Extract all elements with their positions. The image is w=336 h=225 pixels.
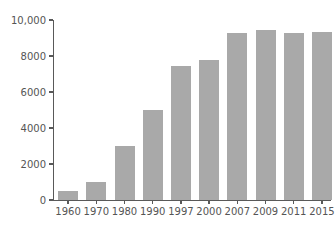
bar [199, 60, 219, 200]
plot-area [54, 20, 336, 200]
x-axis-tick-mark [265, 200, 266, 204]
x-axis-tick-mark [96, 200, 97, 204]
bar [227, 33, 247, 200]
x-axis-tick-label: 1997 [168, 206, 193, 217]
y-axis-tick-label: 10,000 [0, 15, 53, 26]
bar [86, 182, 106, 200]
x-axis-tick-label: 1990 [140, 206, 165, 217]
x-axis-tick-mark [293, 200, 294, 204]
x-axis-tick-mark [180, 200, 181, 204]
x-axis-tick-label: 2011 [281, 206, 306, 217]
bar [171, 66, 191, 200]
x-axis-tick-label: 2000 [196, 206, 221, 217]
bar [143, 110, 163, 200]
y-axis-tick-label: 8000 [0, 51, 53, 62]
bar [284, 33, 304, 200]
x-axis-tick-label: 2009 [253, 206, 278, 217]
x-axis-tick-mark [124, 200, 125, 204]
bar [256, 30, 276, 200]
bar [115, 146, 135, 200]
x-axis-tick-mark [321, 200, 322, 204]
x-axis-tick-label: 2015 [309, 206, 334, 217]
x-axis-tick-label: 1980 [112, 206, 137, 217]
y-axis-tick-label: 2000 [0, 159, 53, 170]
x-axis-tick-label: 2007 [225, 206, 250, 217]
bar [312, 32, 332, 200]
y-axis-tick-label: 0 [0, 195, 53, 206]
x-axis-tick-label: 1970 [84, 206, 109, 217]
y-axis-tick-label: 4000 [0, 123, 53, 134]
bar [58, 191, 78, 200]
x-axis-tick-mark [152, 200, 153, 204]
x-axis-tick-mark [208, 200, 209, 204]
bar-chart: 0200040006000800010,000 1960197019801990… [0, 0, 336, 225]
x-axis-tick-label: 1960 [55, 206, 80, 217]
y-axis-tick-label: 6000 [0, 87, 53, 98]
x-axis-tick-mark [237, 200, 238, 204]
x-axis-tick-mark [67, 200, 68, 204]
